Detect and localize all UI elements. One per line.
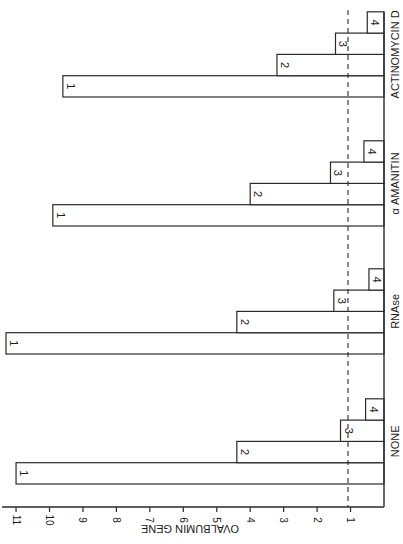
tick-label: 1 xyxy=(345,517,356,523)
bar-group: 1234 xyxy=(53,141,384,226)
bar-group: 1234 xyxy=(63,12,384,97)
tick-label: 10 xyxy=(44,514,55,526)
category-label: ACTINOMYCIN D xyxy=(389,10,401,98)
bar-group: 1234 xyxy=(6,269,384,354)
tick-label: 3 xyxy=(278,517,289,523)
bar-label: 4 xyxy=(366,148,378,154)
bar xyxy=(250,183,384,204)
bar-label: 2 xyxy=(279,62,291,68)
bar-label: 1 xyxy=(18,470,30,476)
bar xyxy=(53,205,384,226)
tick-label: 6 xyxy=(178,517,189,523)
bar-label: 4 xyxy=(371,276,383,282)
bar-label: 3 xyxy=(336,298,348,304)
ovalbumin-bar-chart: 1234123412341234 1234567891011 NONERNAse… xyxy=(0,0,403,544)
bars-layer: 1234123412341234 xyxy=(6,12,384,484)
category-label: NONE xyxy=(389,426,401,458)
tick-label: 5 xyxy=(211,517,222,523)
tick-label: 2 xyxy=(312,517,323,523)
category-label: α AMANITIN xyxy=(389,152,401,214)
bar-label: 4 xyxy=(368,406,380,412)
tick-label: 4 xyxy=(245,517,256,523)
value-axis-title: OVALBUMIN GENE xyxy=(141,523,239,535)
bar-label: 1 xyxy=(55,212,67,218)
category-label: RNAse xyxy=(389,294,401,329)
bar-group: 1234 xyxy=(16,399,384,484)
tick-label: 8 xyxy=(111,517,122,523)
bar-label: 3 xyxy=(332,170,344,176)
tick-label: 9 xyxy=(77,517,88,523)
bar-label: 1 xyxy=(65,83,77,89)
bar xyxy=(6,333,384,354)
bar xyxy=(16,463,384,484)
bar-label: 4 xyxy=(369,19,381,25)
bar xyxy=(237,311,384,332)
bar-label: 1 xyxy=(8,340,20,346)
bar-label: 2 xyxy=(252,191,264,197)
bar xyxy=(277,54,384,75)
bar-label: 2 xyxy=(239,319,251,325)
bar xyxy=(237,441,384,462)
bar xyxy=(63,76,384,97)
bar-label: 2 xyxy=(239,449,251,455)
tick-label: 7 xyxy=(144,517,155,523)
category-labels: NONERNAseα AMANITINACTINOMYCIN D xyxy=(389,10,401,457)
tick-label: 11 xyxy=(11,515,22,526)
